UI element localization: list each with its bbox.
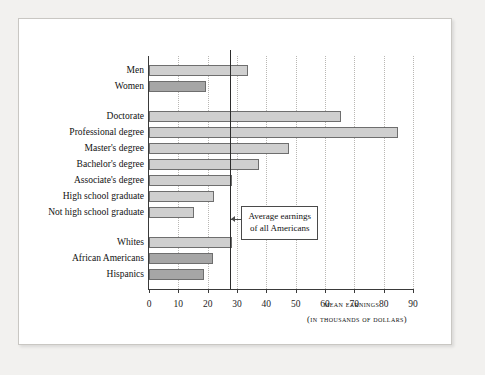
category-label: Associate's degree	[74, 174, 144, 186]
bar	[149, 65, 248, 76]
slide-page: 0102030405060708090 MenWomenDoctoratePro…	[0, 0, 485, 375]
bar-row: African Americans	[149, 253, 413, 264]
bar-row: Master's degree	[149, 143, 413, 154]
chart-plot-area: 0102030405060708090 MenWomenDoctoratePro…	[148, 56, 413, 290]
x-tick-label-0: 0	[147, 299, 152, 309]
tick-mark-60	[325, 289, 326, 293]
bar-row: High school graduate	[149, 191, 413, 202]
category-label: Hispanics	[107, 268, 144, 280]
x-tick-label-50: 50	[291, 299, 301, 309]
x-tick-label-30: 30	[232, 299, 242, 309]
bar-row: Men	[149, 65, 413, 76]
bar-row: Bachelor's degree	[149, 159, 413, 170]
bar	[149, 207, 194, 218]
bar-row: Doctorate	[149, 111, 413, 122]
x-tick-label-80: 80	[379, 299, 389, 309]
x-tick-label-20: 20	[203, 299, 213, 309]
average-reference-line	[230, 50, 231, 289]
gridline-90	[413, 56, 414, 289]
x-axis-subtitle: (in thousands of dollars)	[307, 314, 407, 324]
x-axis-title: Mean earnings	[324, 299, 379, 309]
callout-line-2: of all Americans	[248, 223, 311, 235]
bar	[149, 81, 206, 92]
chart-card: 0102030405060708090 MenWomenDoctoratePro…	[18, 18, 452, 345]
category-label: Professional degree	[69, 126, 144, 138]
category-label: Master's degree	[85, 142, 144, 154]
category-label: African Americans	[72, 252, 144, 264]
bar	[149, 269, 204, 280]
tick-mark-40	[266, 289, 267, 293]
bar	[149, 159, 259, 170]
category-label: Doctorate	[107, 110, 144, 122]
bar	[149, 191, 214, 202]
x-tick-label-40: 40	[262, 299, 272, 309]
tick-mark-20	[208, 289, 209, 293]
tick-mark-70	[354, 289, 355, 293]
tick-mark-90	[413, 289, 414, 293]
bar	[149, 143, 289, 154]
average-earnings-callout: Average earnings of all Americans	[241, 206, 318, 240]
category-label: Bachelor's degree	[77, 158, 144, 170]
bar-row: Hispanics	[149, 269, 413, 280]
category-label: Men	[127, 64, 144, 76]
x-tick-label-10: 10	[174, 299, 184, 309]
bar	[149, 127, 398, 138]
tick-mark-30	[237, 289, 238, 293]
tick-mark-10	[178, 289, 179, 293]
bar	[149, 253, 213, 264]
bar	[149, 237, 232, 248]
callout-arrow-icon	[231, 216, 235, 222]
category-label: High school graduate	[63, 190, 144, 202]
tick-mark-0	[149, 289, 150, 293]
bar	[149, 175, 232, 186]
category-label: Whites	[117, 236, 144, 248]
callout-line-1: Average earnings	[248, 211, 311, 223]
bar-row: Women	[149, 81, 413, 92]
bar-row: Professional degree	[149, 127, 413, 138]
bar-row: Associate's degree	[149, 175, 413, 186]
x-tick-label-90: 90	[408, 299, 418, 309]
tick-mark-80	[384, 289, 385, 293]
category-label: Not high school graduate	[48, 206, 144, 218]
bar	[149, 111, 341, 122]
tick-mark-50	[296, 289, 297, 293]
category-label: Women	[115, 80, 144, 92]
